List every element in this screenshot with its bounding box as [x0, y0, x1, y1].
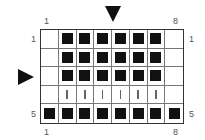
grid-cell	[148, 86, 166, 105]
filled-square-icon	[150, 108, 161, 119]
grid-cell	[130, 86, 148, 105]
filled-square-icon	[97, 33, 108, 44]
grid-cell	[41, 67, 59, 86]
filled-square-icon	[79, 108, 90, 119]
filled-square-icon	[62, 52, 73, 63]
grid-cell	[165, 49, 183, 68]
grid-cell	[165, 30, 183, 49]
grid-cell	[77, 49, 95, 68]
grid-cell	[130, 49, 148, 68]
bottom-right-column-label: 8	[173, 127, 178, 137]
left-top-row-label: 1	[31, 34, 36, 44]
grid-cell	[59, 86, 77, 105]
filled-square-icon	[115, 33, 126, 44]
filled-square-icon	[150, 70, 161, 81]
filled-square-icon	[133, 70, 144, 81]
filled-square-icon	[115, 108, 126, 119]
grid-cell	[94, 104, 112, 123]
grid-cell	[59, 67, 77, 86]
filled-square-icon	[150, 52, 161, 63]
grid-cell	[148, 30, 166, 49]
vertical-bar-icon	[66, 90, 68, 99]
filled-square-icon	[133, 108, 144, 119]
grid-cell	[41, 30, 59, 49]
filled-square-icon	[62, 108, 73, 119]
filled-square-icon	[133, 33, 144, 44]
filled-square-icon	[62, 70, 73, 81]
filled-square-icon	[97, 108, 108, 119]
grid-cell	[112, 86, 130, 105]
filled-square-icon	[115, 70, 126, 81]
grid-cell	[94, 86, 112, 105]
filled-square-icon	[44, 108, 55, 119]
grid-cell	[94, 49, 112, 68]
filled-square-icon	[62, 33, 73, 44]
filled-square-icon	[115, 52, 126, 63]
grid-cell	[148, 104, 166, 123]
right-arrow-marker-icon	[18, 69, 34, 85]
grid-cell	[165, 104, 183, 123]
grid-cell	[148, 49, 166, 68]
vertical-bar-icon	[155, 90, 157, 99]
pattern-chart-grid	[40, 29, 184, 124]
right-bottom-row-label: 5	[189, 109, 194, 119]
grid-cell	[59, 49, 77, 68]
grid-cell	[112, 104, 130, 123]
filled-square-icon	[79, 52, 90, 63]
grid-cell	[41, 104, 59, 123]
bottom-left-column-label: 1	[44, 127, 49, 137]
grid-cell	[165, 86, 183, 105]
grid-cell	[112, 30, 130, 49]
filled-square-icon	[97, 52, 108, 63]
grid-cell	[77, 86, 95, 105]
filled-square-icon	[97, 70, 108, 81]
vertical-bar-icon	[120, 90, 122, 99]
filled-square-icon	[79, 33, 90, 44]
filled-square-icon	[79, 70, 90, 81]
filled-square-icon	[169, 108, 180, 119]
grid-cell	[130, 67, 148, 86]
grid-cell	[148, 67, 166, 86]
grid-cell	[41, 49, 59, 68]
grid-cell	[77, 30, 95, 49]
left-bottom-row-label: 5	[31, 109, 36, 119]
vertical-bar-icon	[102, 90, 104, 99]
grid-cell	[130, 30, 148, 49]
vertical-bar-icon	[137, 90, 139, 99]
filled-square-icon	[150, 33, 161, 44]
grid-cell	[59, 104, 77, 123]
grid-cell	[59, 30, 77, 49]
grid-cell	[112, 67, 130, 86]
right-top-row-label: 1	[189, 34, 194, 44]
grid-cell	[77, 104, 95, 123]
grid-cell	[94, 30, 112, 49]
top-left-column-label: 1	[44, 16, 49, 26]
filled-square-icon	[133, 52, 144, 63]
vertical-bar-icon	[84, 90, 86, 99]
grid-cell	[112, 49, 130, 68]
grid-cell	[130, 104, 148, 123]
grid-cell	[77, 67, 95, 86]
down-arrow-marker-icon	[105, 6, 121, 22]
grid-cell	[165, 67, 183, 86]
grid-cell	[41, 86, 59, 105]
grid-cell	[94, 67, 112, 86]
top-right-column-label: 8	[173, 16, 178, 26]
